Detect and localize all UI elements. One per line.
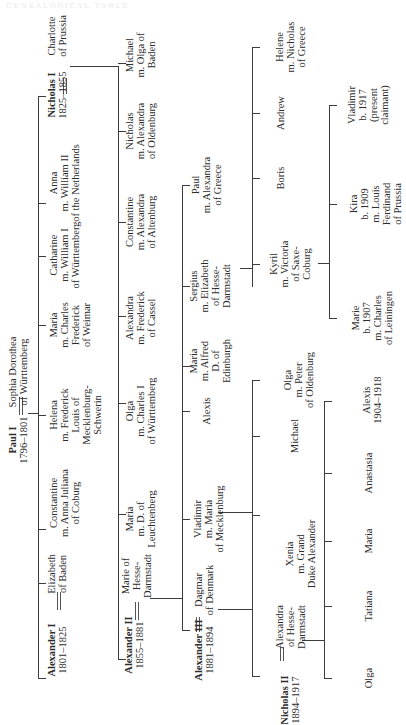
label-line: m. Peter (293, 352, 304, 408)
label-line: of Greece (212, 157, 223, 214)
label-line: Duke Alexander (306, 520, 317, 589)
label-line: Marie (350, 291, 361, 345)
connector (252, 380, 260, 381)
label-line: m. Alexandra (201, 157, 212, 214)
person-sergius-text: Sergiusm. Elizabethof Hesse-Darmstadt (188, 259, 232, 312)
label-line: b. 1917 (357, 85, 368, 125)
label-line: Dagmar (193, 565, 204, 615)
label-line: 1894–1917 (290, 675, 301, 724)
connector (38, 203, 46, 204)
label-line: Frederick (70, 302, 81, 348)
connector (324, 678, 332, 679)
label-line: m. Charles I (135, 378, 146, 445)
connector (38, 325, 46, 326)
person-helena-text: Helenam. FrederickLouis ofMecklenburg-Sc… (48, 385, 103, 444)
connector (182, 411, 190, 412)
label-line: Kira (348, 183, 359, 226)
label-line: Leuchtenberg (146, 490, 157, 548)
person-maria-leuchtenberg-text: Mariam. D. ofLeuchtenberg (124, 490, 157, 548)
person-nicholas-i-text: Nicholas I1825–1855 (46, 71, 68, 118)
connector (324, 401, 325, 679)
person-kyril-text: Kyrilm. Victoriaof Saxe-Coburg (268, 241, 312, 288)
label-line: Helena (48, 385, 59, 444)
connector (38, 678, 46, 679)
label-line: of Cassel (146, 291, 157, 345)
label-line: Constantine (48, 469, 59, 537)
connector (252, 380, 253, 676)
label-line: Maria (48, 302, 59, 348)
label-line: Maria (363, 528, 374, 553)
person-nicholas-oldenburg-text: Nicholasm. Alexandraof Oldenburg (124, 103, 157, 160)
label-line: claimant) (379, 85, 390, 125)
person-olga-oldenburg-text: Olgam. Peterof Oldenburg (282, 352, 315, 408)
person-boris-text: Boris (275, 167, 286, 190)
label-line: of the Netherlands (70, 144, 81, 222)
label-line: m. Alexandra (135, 103, 146, 160)
spouse-dagmar-text: Dagmarof Denmark (193, 565, 215, 615)
label-line: Alexander III (193, 619, 204, 680)
label-line: of Württemberg (18, 337, 29, 408)
label-line: (present (368, 85, 379, 125)
label-line: Michael (124, 32, 135, 77)
person-maria-romanova-text: Maria (363, 528, 374, 553)
person-alexandra-cassel-text: Alexandram. Frederickof Cassel (124, 291, 157, 345)
label-line: Edinburgh (221, 339, 232, 383)
connector (182, 185, 183, 630)
connector (182, 519, 190, 520)
label-line: of Württemberg (146, 378, 157, 445)
connector (150, 598, 182, 599)
label-line: Alexandra (124, 291, 135, 345)
label-line: Baden (146, 32, 157, 77)
label-line: Alexander I (46, 623, 57, 676)
label-line: of Oldenburg (304, 352, 315, 408)
label-line: Michael (289, 419, 300, 453)
connector (252, 178, 260, 179)
label-line: of Hesse- (210, 259, 221, 312)
label-line: 1904–1918 (372, 376, 383, 423)
label-line: Maria (124, 490, 135, 548)
label-line: Coburg (301, 241, 312, 288)
label-line: m. Olga of (135, 32, 146, 77)
person-kira-text: Kirab. 1909m. LouisFerdinandof Prussia (348, 183, 403, 226)
connector (324, 473, 332, 474)
label-line: Vladimir (192, 485, 203, 552)
person-helene-text: Helenem. Nicholasof Greece (274, 22, 307, 73)
label-line: Hesse- (131, 554, 142, 598)
label-line: 1796–1801 (18, 416, 29, 463)
connector (38, 96, 39, 679)
label-line: Anastasia (363, 453, 374, 494)
label-line: m. Louis (370, 183, 381, 226)
label-line: of Prussia (392, 183, 403, 226)
label-line: Darmstadt (221, 259, 232, 312)
person-nicholas-ii-text: Nicholas II1894–1917 (279, 675, 301, 724)
person-catharine-text: Catharinem. William Iof Württemberg (48, 222, 81, 289)
connector (329, 204, 337, 205)
label-line: of Hesse- (285, 605, 296, 649)
spouse-marie-of-hesse-text: Marie ofHesse-Darmstadt (120, 554, 153, 598)
label-line: Elizabeth (46, 554, 57, 594)
label-line: D. of (210, 339, 221, 383)
connector (252, 47, 260, 48)
label-line: Nicholas I (46, 71, 57, 118)
person-vladimir-claimant-text: Vladimirb. 1917(presentclaimant) (346, 85, 390, 125)
label-line: m. William I (59, 222, 70, 289)
label-line: m. Alexandra (135, 194, 146, 251)
person-maria-text: Mariam. CharlesFrederickof Weimar (48, 302, 92, 348)
label-line: Paul I (7, 416, 18, 463)
label-line: of Württemberg (70, 222, 81, 289)
label-line: m. Maria (203, 485, 214, 552)
connector (38, 256, 46, 257)
marriage-symbol (280, 647, 284, 661)
label-line: m. Alfred (199, 339, 210, 383)
label-line: m. Grand (295, 520, 306, 589)
person-alexander-i-text: Alexander I1801–1825 (46, 623, 68, 676)
person-alexis-text: Alexis (201, 397, 212, 424)
label-line: Ferdinand (381, 183, 392, 226)
label-line: of Baden (57, 554, 68, 594)
connector (324, 401, 332, 402)
connector (329, 318, 337, 319)
person-xenia-text: Xeniam. GrandDuke Alexander (284, 520, 317, 589)
label-line: m. D. of (135, 490, 146, 548)
label-line: Sophia Dorothea (7, 337, 18, 408)
label-line: Mecklenburg- (81, 385, 92, 444)
